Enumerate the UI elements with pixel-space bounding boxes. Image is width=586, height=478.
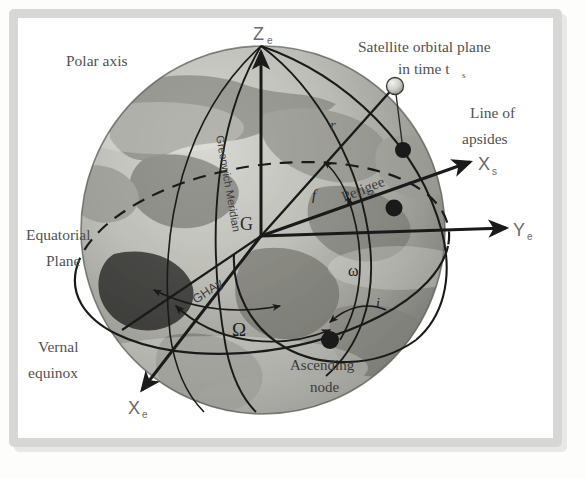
equatorial-plane-line1: Equatorial bbox=[26, 226, 91, 243]
axis-label-xs: X bbox=[478, 154, 490, 174]
satellite-plane-subscript: s bbox=[462, 70, 466, 80]
satellite-plane-line2: in time t bbox=[398, 60, 450, 77]
line-of-apsides-line2: apsides bbox=[462, 130, 508, 147]
raan-label: Ω bbox=[232, 319, 246, 340]
diagram-canvas: Z e Y e X e X s r bbox=[18, 18, 553, 438]
axis-label-z: Z bbox=[253, 24, 264, 44]
vernal-equinox-line2: equinox bbox=[28, 364, 78, 381]
inclination-label: i bbox=[376, 296, 380, 311]
line-of-apsides-line1: Line of bbox=[470, 104, 516, 121]
axis-sublabel-x: e bbox=[142, 409, 148, 420]
satellite-marker bbox=[387, 78, 404, 95]
satellite-plane-label: Satellite orbital plane in time t s bbox=[358, 38, 491, 80]
arg-perigee-label: ω bbox=[348, 262, 359, 279]
vernal-equinox-line1: Vernal bbox=[38, 338, 78, 355]
axis-label-x: X bbox=[128, 398, 140, 418]
perigee-marker bbox=[386, 200, 403, 217]
figure-page: Z e Y e X e X s r bbox=[0, 0, 586, 478]
vernal-equinox-label: Vernal equinox bbox=[28, 338, 78, 381]
radius-label: r bbox=[330, 117, 336, 133]
axis-label-y: Y bbox=[513, 220, 525, 240]
equatorial-plane-line2: Plane bbox=[46, 252, 81, 269]
axis-sublabel-xs: s bbox=[492, 166, 497, 177]
line-of-apsides-label: Line of apsides bbox=[462, 104, 516, 147]
equatorial-plane-label: Equatorial Plane bbox=[26, 226, 91, 269]
polar-axis-label: Polar axis bbox=[66, 52, 128, 69]
ascending-node-marker bbox=[321, 331, 339, 349]
axis-sublabel-z: e bbox=[267, 35, 273, 46]
axis-sublabel-y: e bbox=[527, 231, 533, 242]
satellite-plane-line1: Satellite orbital plane bbox=[358, 38, 491, 55]
ascending-node-line2: node bbox=[310, 379, 340, 395]
orbit-point-marker bbox=[395, 142, 411, 158]
ascending-node-line1: Ascending bbox=[290, 357, 355, 373]
